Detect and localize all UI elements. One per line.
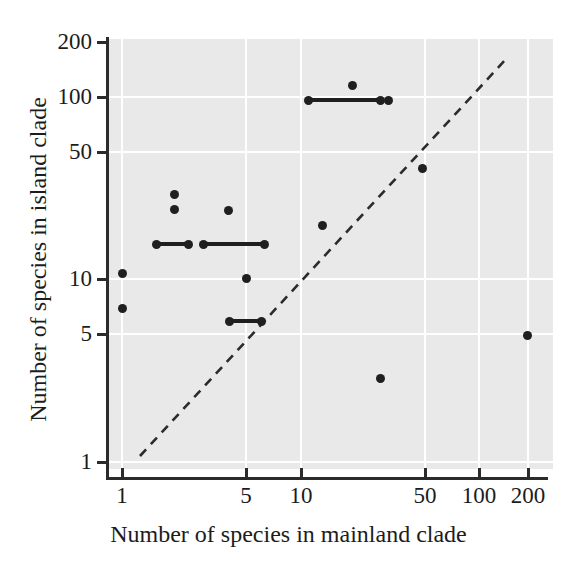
x-tick-mark	[527, 468, 530, 478]
data-point	[118, 269, 127, 278]
data-point	[199, 240, 208, 249]
data-point	[170, 205, 179, 214]
data-point	[257, 317, 266, 326]
data-point	[318, 221, 327, 230]
range-segment	[308, 98, 380, 101]
y-axis-line	[106, 37, 109, 479]
y-tick-mark	[97, 41, 107, 44]
y-tick-mark	[97, 333, 107, 336]
data-point	[418, 164, 427, 173]
data-point	[170, 190, 179, 199]
x-tick-mark	[478, 468, 481, 478]
y-tick-mark	[97, 96, 107, 99]
x-tick-label: 10	[271, 484, 331, 507]
data-point	[242, 274, 251, 283]
data-point	[152, 240, 161, 249]
x-tick-label: 5	[216, 484, 276, 507]
data-point	[225, 317, 234, 326]
data-point	[260, 240, 269, 249]
data-point	[118, 304, 127, 313]
data-point	[184, 240, 193, 249]
x-tick-mark	[300, 468, 303, 478]
x-tick-mark	[245, 468, 248, 478]
y-tick-mark	[97, 461, 107, 464]
y-tick-mark	[97, 151, 107, 154]
data-point	[384, 96, 393, 105]
y-tick-mark	[97, 278, 107, 281]
x-tick-mark	[121, 468, 124, 478]
data-point	[224, 206, 233, 215]
data-point	[376, 374, 385, 383]
x-tick-label: 50	[395, 484, 455, 507]
data-point	[523, 331, 532, 340]
data-point	[348, 81, 357, 90]
y-axis-label: Number of species in island clade	[25, 50, 52, 470]
x-tick-label: 200	[498, 484, 558, 507]
x-tick-label: 1	[92, 484, 152, 507]
x-axis-label: Number of species in mainland clade	[0, 521, 577, 548]
x-tick-mark	[424, 468, 427, 478]
x-axis-line	[106, 477, 548, 480]
range-segment	[203, 242, 264, 245]
data-point	[304, 96, 313, 105]
scatter-plot-figure: 200100501051 151050100200 Number of spec…	[0, 0, 577, 574]
